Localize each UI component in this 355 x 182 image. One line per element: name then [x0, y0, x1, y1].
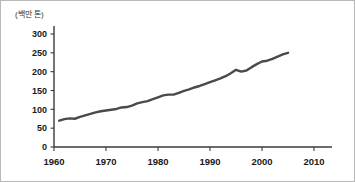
y-axis-tick-label: 0 [42, 142, 47, 152]
y-axis-tick-label: 200 [32, 67, 47, 77]
y-axis-tick-label: 250 [32, 48, 47, 58]
x-axis-tick-label: 1970 [95, 156, 116, 167]
chart-plot-area: 050100150200250300 196019701980199020002… [1, 1, 355, 182]
x-axis-tick-label: 1990 [199, 156, 220, 167]
y-axis-tick-label: 300 [32, 29, 47, 39]
x-axis-tick-label: 2000 [251, 156, 272, 167]
y-axis-tick-label: 100 [32, 105, 47, 115]
y-axis-tick-label: 150 [32, 86, 47, 96]
x-axis-tick-labels: 196019701980199020002010 [43, 156, 324, 167]
chart-figure: (백만 톤) 050100150200250300 19601970198019… [0, 0, 355, 182]
x-axis-tick-label: 1960 [43, 156, 64, 167]
x-axis-tick-label: 1980 [147, 156, 168, 167]
x-axis-tick-label: 2010 [303, 156, 324, 167]
data-series-line [59, 53, 288, 121]
y-axis-tick-labels: 050100150200250300 [32, 29, 47, 152]
y-axis-tick-label: 50 [37, 123, 47, 133]
